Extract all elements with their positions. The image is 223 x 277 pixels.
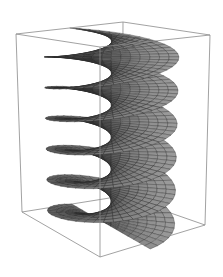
surface-facet xyxy=(130,55,140,57)
surface-facet xyxy=(166,152,176,157)
surface-facet xyxy=(169,57,179,60)
helicoid-surface xyxy=(44,28,179,249)
surface-facet xyxy=(167,119,177,123)
surface-facet xyxy=(147,84,158,87)
surface-facet xyxy=(139,87,149,90)
surface-facet xyxy=(138,84,149,87)
surface-facet xyxy=(120,85,130,87)
box-edge-top-back-right xyxy=(123,22,210,35)
surface-facet xyxy=(148,51,159,54)
surface-facet xyxy=(168,86,179,90)
surface-facet xyxy=(147,116,158,119)
box-edge-left-vertical xyxy=(16,34,22,212)
surface-facet xyxy=(138,116,148,119)
surface-facet xyxy=(121,55,131,57)
surface-facet xyxy=(103,219,113,223)
surface-facet xyxy=(168,54,179,57)
surface-facet xyxy=(140,54,150,57)
surface-facet xyxy=(130,87,140,89)
surface-facet xyxy=(158,87,168,90)
surface-facet xyxy=(158,119,168,123)
surface-facet xyxy=(140,57,150,60)
surface-facet xyxy=(92,57,102,58)
surface-facet xyxy=(121,87,131,89)
surface-facet xyxy=(149,54,159,57)
box-edge-right-vertical xyxy=(205,35,210,225)
surface-facet xyxy=(129,117,139,120)
surface-facet xyxy=(159,57,169,60)
surface-facet xyxy=(148,119,158,122)
surface-facet xyxy=(159,54,169,57)
surface-facet xyxy=(146,181,157,185)
helicoid-3d-plot xyxy=(0,0,223,277)
surface-facet xyxy=(139,52,150,55)
surface-facet xyxy=(149,87,159,90)
surface-facet xyxy=(168,90,178,94)
box-edge-top-front-left xyxy=(16,34,100,47)
surface-facet xyxy=(146,148,157,152)
surface-facet xyxy=(111,55,121,57)
surface-facet xyxy=(129,84,139,87)
surface-facet xyxy=(137,149,147,152)
surface-facet xyxy=(102,57,112,59)
surface-facet xyxy=(111,85,120,87)
surface-facet xyxy=(150,57,160,60)
